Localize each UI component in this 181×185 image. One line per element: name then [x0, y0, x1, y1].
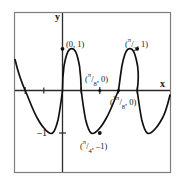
marker-min-pi-4	[98, 131, 102, 135]
point-label-zero-3pi-8-text: (3π/8, 0)	[110, 96, 136, 109]
paren-close: , 0)	[97, 74, 108, 84]
y-tick-label-minus-one: –1	[37, 128, 47, 138]
point-label-zero-3pi-8: (3π/8, 0)	[110, 96, 136, 109]
graph-figure: y x –1 (0, 1) (π/2, 1) (π/8, 0) (3π/8, 0…	[0, 0, 181, 185]
frac-numerator: 3π	[113, 94, 120, 101]
paren-close: , 1)	[137, 39, 148, 49]
point-label-min-pi-4-text: (π/4, –1)	[80, 140, 107, 153]
frac-numerator: π	[128, 36, 131, 43]
point-label-max-origin: (0, 1)	[66, 40, 84, 49]
y-axis-label: y	[55, 12, 60, 22]
marker-zero-pi-8	[98, 89, 101, 92]
frac-numerator: π	[83, 138, 86, 145]
point-label-max-right: (π/2, 1)	[125, 38, 148, 51]
graph-canvas	[0, 0, 181, 185]
frac-denominator: 2	[134, 45, 137, 52]
paren-close: , –1)	[92, 141, 108, 151]
marker-zero-3pi-8	[117, 89, 120, 92]
marker-max-origin	[61, 47, 65, 51]
frac-denominator: 8	[122, 103, 125, 110]
frac-denominator: 4	[89, 147, 92, 154]
frac-numerator: π	[88, 71, 91, 78]
x-axis-label: x	[160, 79, 165, 89]
paren-close: , 0)	[125, 97, 136, 107]
frac-denominator: 8	[94, 80, 97, 87]
point-label-zero-pi-8-text: (π/8, 0)	[85, 73, 108, 86]
point-label-max-right-text: (π/2, 1)	[125, 38, 148, 51]
point-label-min-pi-4: (π/4, –1)	[80, 140, 107, 153]
point-label-zero-pi-8: (π/8, 0)	[85, 73, 108, 86]
